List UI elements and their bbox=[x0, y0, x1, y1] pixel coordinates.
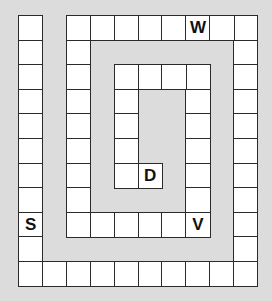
grid-cell[interactable] bbox=[18, 261, 43, 287]
grid-cell[interactable] bbox=[66, 15, 91, 41]
grid-cell[interactable] bbox=[233, 15, 258, 41]
grid-cell[interactable] bbox=[233, 187, 258, 213]
grid-cell[interactable] bbox=[90, 212, 115, 238]
grid-cell[interactable] bbox=[114, 212, 139, 238]
grid-cell[interactable] bbox=[18, 64, 43, 90]
letter-cell-v[interactable]: V bbox=[185, 212, 210, 238]
grid-cell[interactable] bbox=[233, 113, 258, 139]
grid-cell[interactable] bbox=[18, 15, 43, 41]
cell-letter: S bbox=[25, 215, 36, 235]
grid-cell[interactable] bbox=[114, 64, 139, 90]
grid-cell[interactable] bbox=[138, 15, 163, 41]
grid-cell[interactable] bbox=[18, 236, 43, 262]
letter-cell-s[interactable]: S bbox=[18, 212, 43, 238]
grid-cell[interactable] bbox=[66, 64, 91, 90]
grid-cell[interactable] bbox=[18, 89, 43, 115]
grid-cell[interactable] bbox=[18, 163, 43, 189]
grid-cell[interactable] bbox=[233, 89, 258, 115]
grid-cell[interactable] bbox=[185, 261, 210, 287]
cell-letter: D bbox=[144, 166, 156, 186]
grid-cell[interactable] bbox=[161, 212, 186, 238]
grid-cell[interactable] bbox=[185, 113, 210, 139]
cell-letter: W bbox=[190, 18, 206, 38]
grid-cell[interactable] bbox=[114, 261, 139, 287]
grid-cell[interactable] bbox=[66, 261, 91, 287]
grid-cell[interactable] bbox=[114, 138, 139, 164]
grid-cell[interactable] bbox=[161, 64, 186, 90]
grid-cell[interactable] bbox=[185, 163, 210, 189]
grid-cell[interactable] bbox=[66, 40, 91, 66]
grid-cell[interactable] bbox=[66, 89, 91, 115]
grid-cell[interactable] bbox=[185, 187, 210, 213]
grid-cell[interactable] bbox=[233, 64, 258, 90]
grid-cell[interactable] bbox=[185, 138, 210, 164]
grid-cell[interactable] bbox=[233, 212, 258, 238]
grid-cell[interactable] bbox=[161, 15, 186, 41]
grid-cell[interactable] bbox=[233, 40, 258, 66]
cell-letter: V bbox=[192, 215, 203, 235]
grid-cell[interactable] bbox=[114, 163, 139, 189]
grid-cell[interactable] bbox=[185, 64, 210, 90]
grid-cell[interactable] bbox=[138, 212, 163, 238]
grid-cell[interactable] bbox=[90, 261, 115, 287]
grid-cell[interactable] bbox=[233, 138, 258, 164]
grid-cell[interactable] bbox=[66, 187, 91, 213]
grid-cell[interactable] bbox=[185, 89, 210, 115]
grid-cell[interactable] bbox=[233, 261, 258, 287]
grid-cell[interactable] bbox=[66, 212, 91, 238]
grid-cell[interactable] bbox=[138, 261, 163, 287]
grid-cell[interactable] bbox=[18, 113, 43, 139]
grid-cell[interactable] bbox=[233, 163, 258, 189]
grid-cell[interactable] bbox=[114, 89, 139, 115]
grid-cell[interactable] bbox=[114, 113, 139, 139]
game-board: SWVD bbox=[0, 0, 272, 301]
grid-cell[interactable] bbox=[18, 40, 43, 66]
grid-cell[interactable] bbox=[42, 261, 67, 287]
grid-cell[interactable] bbox=[233, 236, 258, 262]
grid-cell[interactable] bbox=[18, 138, 43, 164]
letter-cell-w[interactable]: W bbox=[185, 15, 210, 41]
grid-cell[interactable] bbox=[209, 15, 234, 41]
grid-cell[interactable] bbox=[209, 261, 234, 287]
grid-cell[interactable] bbox=[66, 163, 91, 189]
letter-cell-d[interactable]: D bbox=[138, 163, 163, 189]
grid-cell[interactable] bbox=[18, 187, 43, 213]
grid-cell[interactable] bbox=[90, 15, 115, 41]
grid-cell[interactable] bbox=[66, 138, 91, 164]
grid-cell[interactable] bbox=[114, 15, 139, 41]
grid-cell[interactable] bbox=[138, 64, 163, 90]
grid-cell[interactable] bbox=[66, 113, 91, 139]
grid-cell[interactable] bbox=[161, 261, 186, 287]
